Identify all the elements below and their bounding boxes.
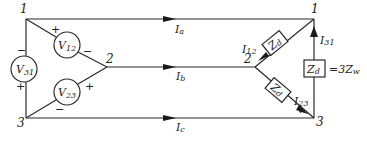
source-v23: V23 + − — [54, 79, 94, 116]
v31-plus-sign: + — [16, 80, 25, 93]
node-label-right-1: 1 — [311, 2, 319, 16]
v23-minus-sign: − — [55, 103, 64, 116]
v23-wire-in — [26, 100, 56, 118]
impedance-z31: Zd — [304, 60, 325, 77]
node-label-left-1: 1 — [20, 2, 28, 16]
impedance-z23: Zd — [265, 78, 291, 103]
node-label-left-3: 3 — [17, 116, 25, 130]
current-label-ia: Ia — [174, 23, 184, 36]
impedance-z12: Zd — [262, 31, 288, 56]
v12-minus-sign: − — [83, 45, 92, 58]
current-label-i12: I12 — [241, 43, 257, 56]
source-v31: V31 − + — [11, 44, 37, 93]
ia-arrow-icon — [163, 16, 176, 22]
current-label-ic: Ic — [175, 121, 185, 134]
ic-arrow-icon — [163, 115, 176, 121]
v12-plus-sign: + — [51, 23, 60, 36]
v23-plus-sign: + — [85, 80, 94, 93]
node-label-right-3: 3 — [316, 115, 324, 129]
current-label-ib: Ib — [175, 70, 185, 83]
current-label-i31: I31 — [319, 34, 335, 47]
impedance-equation: =3Zw — [329, 63, 360, 76]
source-v12: V12 + − — [51, 23, 92, 58]
ib-arrow-icon — [163, 64, 176, 70]
node-label-left-2: 2 — [105, 52, 114, 66]
current-label-i23: I23 — [293, 95, 309, 108]
circuit-diagram: V31 − + V12 + − V23 + − 1 2 3 1 2 3 Ia I… — [0, 0, 367, 142]
v31-minus-sign: − — [17, 44, 26, 57]
i31-arrow-icon — [310, 26, 318, 37]
